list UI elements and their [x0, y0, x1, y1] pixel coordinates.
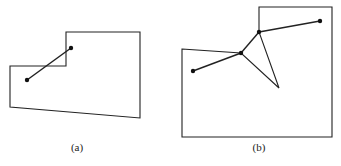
figure-b: (b)	[182, 7, 332, 154]
polygon-a	[10, 32, 140, 118]
point	[239, 51, 243, 55]
figure-a: (a)	[10, 32, 140, 154]
segments-a	[27, 48, 71, 80]
polygon-b	[182, 7, 332, 137]
segment	[27, 48, 71, 80]
segments-b	[193, 21, 320, 71]
segment	[241, 32, 259, 53]
point	[69, 46, 73, 50]
diagram-canvas: (a) (b)	[0, 0, 341, 166]
point	[191, 69, 195, 73]
point	[25, 78, 29, 82]
point	[257, 30, 261, 34]
figure-b-label: (b)	[253, 141, 266, 154]
figure-a-label: (a)	[71, 141, 84, 154]
segment	[193, 53, 241, 71]
segment	[259, 21, 320, 32]
point	[318, 19, 322, 23]
